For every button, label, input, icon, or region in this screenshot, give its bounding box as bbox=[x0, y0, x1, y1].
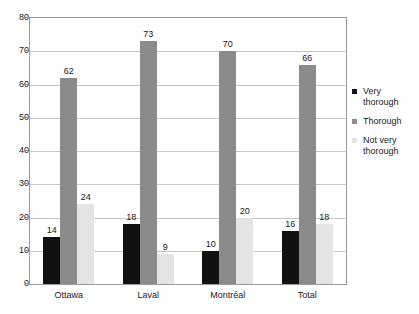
bar-value-label: 66 bbox=[295, 54, 319, 63]
bar bbox=[123, 224, 140, 284]
bars-layer: 14622418739107020166618 bbox=[29, 17, 347, 285]
legend-label-line2: thorough bbox=[363, 146, 419, 157]
x-axis-category-label: Total bbox=[272, 290, 342, 300]
bar bbox=[157, 254, 174, 284]
bar-value-label: 18 bbox=[312, 213, 336, 222]
bar-value-label: 62 bbox=[57, 67, 81, 76]
bar-value-label: 24 bbox=[74, 193, 98, 202]
legend-item[interactable]: Verythorough bbox=[352, 86, 419, 108]
cropped-text-residue: . bbox=[0, 0, 419, 5]
legend-swatch-icon bbox=[352, 138, 357, 143]
bar-chart: . 80706050403020100 14622418739107020166… bbox=[0, 0, 419, 314]
bar bbox=[236, 218, 253, 285]
bar bbox=[77, 204, 94, 284]
chart-legend: VerythoroughThoroughNot verythorough bbox=[352, 86, 419, 165]
x-axis-category-label: Ottawa bbox=[34, 290, 104, 300]
bar bbox=[202, 251, 219, 284]
x-axis-category-label: Laval bbox=[113, 290, 183, 300]
legend-swatch-icon bbox=[352, 119, 357, 124]
bar-value-label: 20 bbox=[233, 207, 257, 216]
bar-value-label: 70 bbox=[216, 40, 240, 49]
bar bbox=[316, 224, 333, 284]
bar bbox=[60, 78, 77, 284]
legend-label: Thorough bbox=[363, 116, 419, 127]
bar bbox=[282, 231, 299, 284]
legend-swatch-icon bbox=[352, 89, 357, 94]
legend-label: Very bbox=[363, 86, 419, 97]
bar-value-label: 9 bbox=[153, 243, 177, 252]
legend-item[interactable]: Not verythorough bbox=[352, 135, 419, 157]
x-axis-category-label: Montréal bbox=[193, 290, 263, 300]
bar bbox=[43, 237, 60, 284]
bar bbox=[299, 65, 316, 284]
legend-item[interactable]: Thorough bbox=[352, 116, 419, 127]
legend-label-line2: thorough bbox=[363, 97, 419, 108]
bar-value-label: 73 bbox=[136, 30, 160, 39]
legend-label: Not very bbox=[363, 135, 419, 146]
bar bbox=[219, 51, 236, 284]
y-axis: 80706050403020100 bbox=[0, 0, 29, 314]
